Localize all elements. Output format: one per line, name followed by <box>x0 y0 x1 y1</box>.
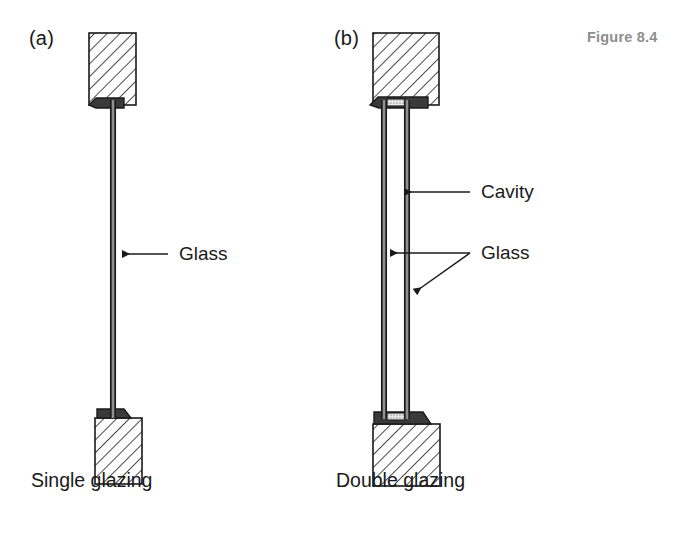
panel-a-single-glazing <box>89 33 168 484</box>
panel-b-bottom-spacer-bar <box>387 413 405 420</box>
panel-a-glass-label: Glass <box>179 244 228 263</box>
panel-a-glass-pane <box>110 100 116 418</box>
panel-b-top-masonry-block <box>373 33 439 105</box>
panel-b-glass-pane-inner <box>404 100 410 419</box>
panel-a-letter: (a) <box>29 28 54 48</box>
panel-a-top-glazing-bead <box>89 98 124 108</box>
panel-b-cavity-label: Cavity <box>481 182 534 201</box>
panel-b-caption: Double glazing <box>336 471 465 491</box>
figure-canvas: (a) (b) Glass Cavity Glass Single glazin… <box>0 0 691 547</box>
panel-a-top-masonry-block <box>89 33 136 105</box>
figure-number: Figure 8.4 <box>587 29 658 45</box>
panel-b-top-spacer-bar <box>387 99 405 106</box>
panel-a-caption: Single glazing <box>31 471 152 491</box>
panel-b-letter: (b) <box>334 28 359 48</box>
panel-b-double-glazing <box>370 33 470 486</box>
panel-b-glass-label: Glass <box>481 243 530 262</box>
panel-b-glass-leader-diagonal <box>415 253 470 292</box>
panel-b-glass-pane-outer <box>381 100 387 419</box>
glazing-diagram <box>0 0 691 547</box>
